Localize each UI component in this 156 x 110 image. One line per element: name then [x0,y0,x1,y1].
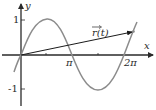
vector-label: r(t) [92,28,109,38]
plot-canvas [0,0,156,110]
position-vector-arrow [21,32,132,55]
y-tick-label-1: 1 [13,15,19,25]
x-tick-label-2pi: 2π [124,58,137,68]
y-axis-label: y [25,1,31,11]
vector-accent-icon [92,25,109,29]
x-tick-label-pi: π [66,58,73,68]
x-axis-label: x [144,41,150,51]
vector-tip-point [132,30,135,33]
y-tick-label-neg1: -1 [8,84,18,94]
